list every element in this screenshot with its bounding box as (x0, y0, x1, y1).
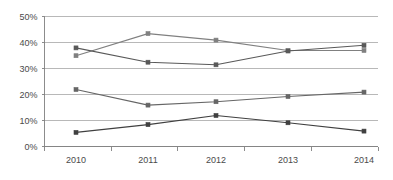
series-3 (74, 88, 366, 108)
data-point-marker (74, 130, 78, 134)
data-point-marker (146, 123, 150, 127)
x-tick-labels: 20102011201220132014 (66, 155, 374, 165)
data-point-marker (362, 90, 366, 94)
series-line-2 (76, 45, 364, 65)
series-line-1 (76, 34, 364, 56)
x-tick-label-2012: 2012 (206, 155, 226, 165)
y-tick-label: 20% (19, 90, 37, 100)
data-point-marker (286, 121, 290, 125)
line-chart: 0%10%20%30%40%50% 20102011201220132014 (0, 0, 393, 180)
y-tick-label: 0% (24, 142, 37, 152)
series-line-3 (76, 90, 364, 106)
data-point-marker (214, 38, 218, 42)
y-tick-label: 50% (19, 12, 37, 22)
data-point-marker (74, 88, 78, 92)
data-point-marker (362, 129, 366, 133)
data-point-marker (74, 54, 78, 58)
data-point-marker (286, 49, 290, 53)
data-point-marker (362, 43, 366, 47)
y-tick-label: 30% (19, 64, 37, 74)
data-point-marker (214, 100, 218, 104)
data-point-marker (146, 103, 150, 107)
x-tick-label-2013: 2013 (278, 155, 298, 165)
x-tick-label-2011: 2011 (138, 155, 157, 165)
series-2 (74, 43, 366, 67)
series-4 (74, 114, 366, 135)
y-tick-label: 10% (19, 116, 37, 126)
data-point-marker (146, 60, 150, 64)
data-point-marker (146, 32, 150, 36)
data-point-marker (214, 63, 218, 67)
x-tick-label-2010: 2010 (66, 155, 86, 165)
y-tick-label: 40% (19, 38, 37, 48)
data-point-marker (74, 46, 78, 50)
data-point-marker (214, 114, 218, 118)
y-tick-labels: 0%10%20%30%40%50% (19, 12, 37, 152)
series-line-4 (76, 116, 364, 133)
data-series (74, 32, 366, 135)
data-point-marker (362, 49, 366, 53)
chart-canvas: 0%10%20%30%40%50% 20102011201220132014 (0, 0, 393, 180)
data-point-marker (286, 95, 290, 99)
x-tick-label-2014: 2014 (354, 155, 374, 165)
series-1 (74, 32, 366, 58)
